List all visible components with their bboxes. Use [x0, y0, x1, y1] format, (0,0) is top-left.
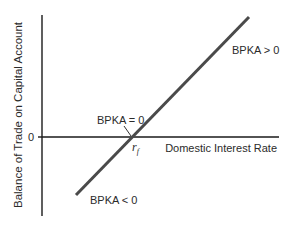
bpka-zero-pointer [124, 126, 131, 136]
x-axis-label: Domestic Interest Rate [165, 142, 277, 154]
bpka-curve [76, 17, 249, 195]
origin-label: 0 [28, 131, 34, 143]
bpka-positive-label: BPKA > 0 [232, 44, 279, 56]
bpka-negative-label: BPKA < 0 [90, 194, 137, 206]
intersection-label: rf [132, 140, 141, 156]
intersection-subscript: f [137, 147, 141, 156]
bpka-diagram: Balance of Trade on Capital Account 0 Do… [0, 0, 295, 228]
bpka-zero-label: BPKA = 0 [97, 114, 144, 126]
y-axis-label: Balance of Trade on Capital Account [12, 21, 24, 208]
